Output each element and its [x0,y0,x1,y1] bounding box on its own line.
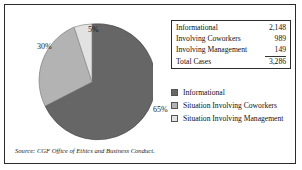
legend: Informational Situation Involving Cowork… [171,86,283,125]
table-cell-label: Involving Coworkers [176,34,265,45]
table-row: Informational 2,148 [176,23,286,34]
table-cell-value: 149 [265,45,286,56]
legend-item-informational[interactable]: Informational [171,86,283,99]
pie-chart-svg [31,21,153,143]
legend-swatch-icon [171,115,178,122]
summary-table: Informational 2,148 Involving Coworkers … [171,20,291,69]
pie-label-management: 5% [88,25,99,34]
table-row: Involving Coworkers 989 [176,34,286,45]
figure-panel: 65% 30% 5% Informational 2,148 Involving… [4,4,296,164]
legend-item-coworkers[interactable]: Situation Involving Coworkers [171,99,283,112]
legend-item-label: Situation Involving Management [183,114,283,123]
table-cell-value: 2,148 [265,23,286,34]
legend-swatch-icon [171,102,178,109]
source-note: Source: CGF Office of Ethics and Busines… [15,147,155,154]
table-cell-total-value: 3,286 [265,56,286,67]
pie-label-informational: 65% [153,105,168,114]
pie-label-coworkers: 30% [37,42,52,51]
table-cell-label: Informational [176,23,265,34]
summary-table-grid: Informational 2,148 Involving Coworkers … [176,23,286,68]
legend-swatch-icon [171,89,178,96]
pie-chart: 65% 30% 5% [31,21,153,143]
legend-item-label: Situation Involving Coworkers [183,101,277,110]
table-cell-label: Involving Management [176,45,265,56]
table-cell-value: 989 [265,34,286,45]
legend-item-management[interactable]: Situation Involving Management [171,112,283,125]
table-cell-total-label: Total Cases [176,56,265,67]
table-total-row: Total Cases 3,286 [176,56,286,67]
table-row: Involving Management 149 [176,45,286,56]
legend-item-label: Informational [183,88,225,97]
